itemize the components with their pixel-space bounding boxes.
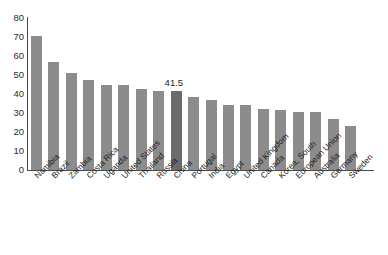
- x-tick-label: Egypt: [224, 159, 246, 181]
- bar-chart: 80706050403020100 41.5 NamibiaBrazilZamb…: [0, 0, 388, 255]
- x-axis-category-labels: NamibiaBrazilZambiaCosta RicaUgandaUnite…: [0, 0, 388, 255]
